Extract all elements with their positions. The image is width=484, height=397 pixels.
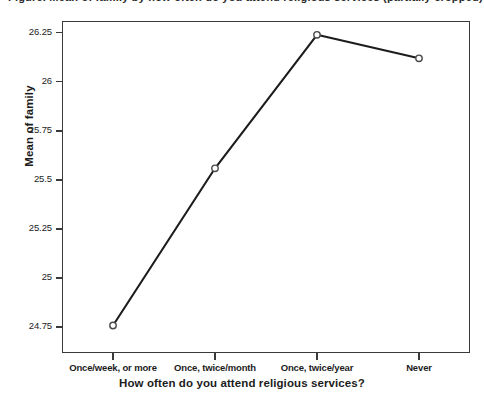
y-tick-mark [56,130,63,132]
x-tick-label: Once, twice/month [174,362,256,373]
cropped-caption-text: Figure. Mean of family by how often do y… [8,0,483,3]
cropped-caption-strip: Figure. Mean of family by how often do y… [0,0,484,7]
y-tick-mark [56,326,63,328]
x-tick-mark [112,353,113,360]
y-tick-mark [56,32,63,34]
x-axis-title: How often do you attend religious servic… [0,377,484,389]
y-tick-label: 25 [0,271,52,282]
y-tick-label: 26.25 [0,26,52,37]
plot-area-frame [62,21,470,353]
x-tick-label: Once, twice/year [281,362,354,373]
y-tick-mark [56,81,63,83]
y-tick-label: 25.5 [0,173,52,184]
x-tick-mark [214,353,215,360]
y-tick-mark [56,277,63,279]
y-tick-label: 25.25 [0,222,52,233]
y-tick-label: 24.75 [0,320,52,331]
x-tick-label: Never [406,362,432,373]
x-tick-label: Once/week, or more [69,362,157,373]
line-chart: Figure. Mean of family by how often do y… [0,0,484,397]
x-tick-mark [418,353,419,360]
y-tick-label: 26 [0,75,52,86]
x-tick-mark [316,353,317,360]
y-tick-mark [56,179,63,181]
y-tick-label: 25.75 [0,124,52,135]
y-tick-mark [56,228,63,230]
